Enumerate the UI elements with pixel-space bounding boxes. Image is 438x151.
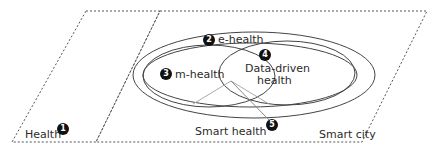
health-label: Health: [25, 129, 61, 141]
smart-city-label: Smart city: [319, 129, 376, 141]
m-health-label: m-health: [175, 69, 225, 81]
badge-2: 2: [203, 34, 215, 46]
e-health-label: e-health: [218, 34, 264, 46]
smart-health-label: Smart health: [195, 126, 267, 138]
health-region: [12, 11, 160, 142]
badge-1: 1: [57, 123, 69, 135]
badge-3: 3: [160, 68, 172, 80]
data-driven-label-line2: health: [257, 75, 292, 87]
badge-4: 4: [259, 49, 271, 61]
badge-5: 5: [266, 119, 278, 131]
